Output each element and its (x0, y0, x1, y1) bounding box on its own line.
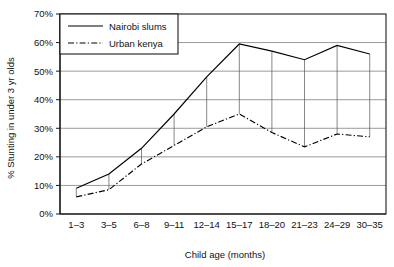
x-axis: 1–33–56–89–1112–1415–1718–2021–2324–2930… (60, 214, 386, 230)
x-tick-label: 12–14 (193, 219, 219, 230)
legend-label-urban-kenya: Urban kenya (109, 38, 164, 49)
x-tick-label: 15–17 (226, 219, 252, 230)
chart-legend: Nairobi slums Urban kenya (60, 14, 178, 54)
x-tick-label: 3–5 (101, 219, 117, 230)
series-nairobi-slums (76, 44, 369, 188)
y-tick-label: 40% (34, 94, 54, 105)
x-tick-label: 18–20 (259, 219, 285, 230)
line-chart: 0%10%20%30%40%50%60%70% 1–33–56–89–1112–… (0, 0, 394, 267)
x-tick-label: 1–3 (68, 219, 84, 230)
y-tick-label: 70% (34, 8, 54, 19)
y-tick-label: 50% (34, 66, 54, 77)
y-tick-label: 0% (39, 208, 53, 219)
x-axis-title-label: Child age (months) (185, 249, 265, 260)
x-tick-label: 30–35 (356, 219, 382, 230)
x-tick-label: 21–23 (291, 219, 317, 230)
y-axis-title-label: % Stunting in under 3 yr olds (5, 57, 16, 179)
y-tick-label: 30% (34, 123, 54, 134)
x-tick-label: 9–11 (164, 219, 184, 230)
y-tick-label: 20% (34, 151, 54, 162)
y-tick-label: 10% (34, 180, 54, 191)
series-urban-kenya (76, 114, 369, 197)
y-tick-label: 60% (34, 37, 54, 48)
y-axis-title: % Stunting in under 3 yr olds (5, 57, 16, 179)
x-axis-title: Child age (months) (185, 249, 265, 260)
x-tick-label: 24–29 (324, 219, 350, 230)
legend-label-nairobi-slums: Nairobi slums (109, 21, 167, 32)
x-tick-label: 6–8 (134, 219, 150, 230)
y-axis: 0%10%20%30%40%50%60%70% (34, 8, 60, 219)
chart-container: 0%10%20%30%40%50%60%70% 1–33–56–89–1112–… (0, 0, 394, 267)
